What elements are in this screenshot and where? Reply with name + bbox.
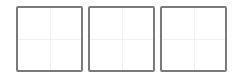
horizontal-guide-line bbox=[90, 39, 153, 40]
tile-row bbox=[16, 6, 227, 72]
horizontal-guide-line bbox=[18, 39, 81, 40]
empty-tile-1[interactable] bbox=[16, 6, 83, 72]
horizontal-guide-line bbox=[162, 39, 225, 40]
empty-tile-3[interactable] bbox=[160, 6, 227, 72]
empty-tile-2[interactable] bbox=[88, 6, 155, 72]
